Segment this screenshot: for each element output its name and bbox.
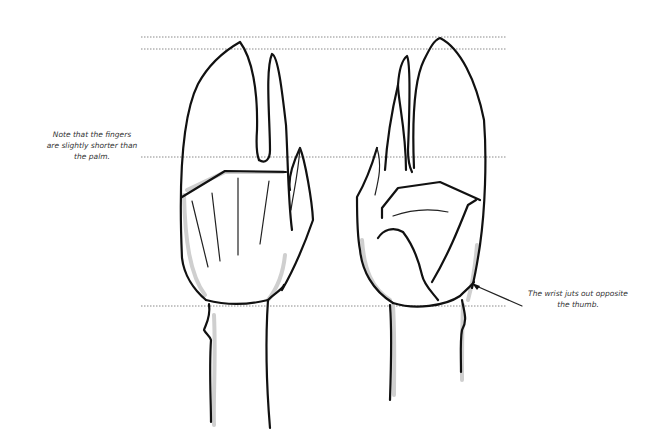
guide-lines (141, 37, 507, 306)
annotation-right-line-1: The wrist juts out opposite (518, 288, 638, 299)
right-hand-drawing (357, 38, 522, 400)
annotation-left-line-3: the palm. (32, 151, 152, 162)
annotation-right-line-2: the thumb. (518, 299, 638, 310)
left-hand-drawing (181, 42, 313, 428)
annotation-left-line-2: are slightly shorter than (32, 140, 152, 151)
annotation-fingers-vs-palm: Note that the fingers are slightly short… (32, 129, 152, 162)
wrist-pointer-arrow (474, 285, 522, 306)
annotation-left-line-1: Note that the fingers (32, 129, 152, 140)
annotation-wrist: The wrist juts out opposite the thumb. (518, 288, 638, 310)
hand-illustration (0, 0, 665, 437)
